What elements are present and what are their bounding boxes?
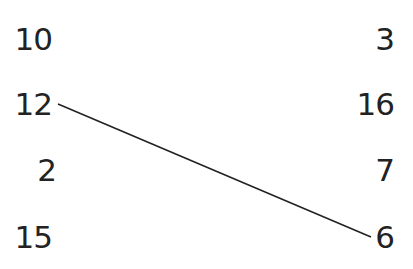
connection-line-12-to-6 bbox=[58, 104, 371, 237]
connection-lines bbox=[0, 0, 413, 269]
